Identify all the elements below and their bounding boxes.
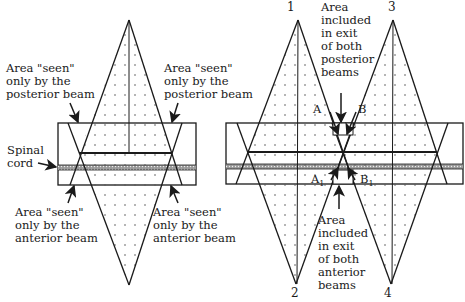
point-subscript: 1 (319, 179, 324, 188)
label-line: beams (321, 66, 374, 79)
diagram-graphics (0, 0, 465, 302)
label-line: posterior beam (6, 88, 95, 101)
label-line: anterior beam (153, 232, 236, 245)
left-diagram (38, 20, 196, 285)
label-anterior-only-right: Area "seen" only by the anterior beam (153, 206, 236, 245)
point-label-a1: A1 (311, 173, 324, 190)
label-line: beams (318, 279, 368, 292)
beam-number-2: 2 (291, 286, 299, 300)
label-posterior-overlap: Area included in exit of both posterior … (321, 1, 374, 79)
point-subscript: 1 (368, 179, 373, 188)
label-posterior-only-right: Area "seen" only by the posterior beam (164, 62, 253, 101)
label-line: posterior beam (164, 88, 253, 101)
label-anterior-only-left: Area "seen" only by the anterior beam (15, 206, 98, 245)
label-line: anterior beam (15, 232, 98, 245)
point-label-b: B (358, 103, 366, 116)
beam-number-1: 1 (287, 0, 295, 14)
label-anterior-overlap: Area included in exit of both anterior b… (318, 214, 368, 292)
beam-number-3: 3 (388, 0, 396, 14)
label-line: cord (7, 157, 44, 170)
point-label-a: A (313, 103, 321, 116)
beam-number-4: 4 (384, 286, 392, 300)
spinal-beam-diagram: Area "seen" only by the posterior beam A… (0, 0, 465, 302)
label-posterior-only-left: Area "seen" only by the posterior beam (6, 62, 95, 101)
point-label-b1: B1 (360, 173, 374, 190)
label-spinal-cord: Spinal cord (7, 144, 44, 170)
